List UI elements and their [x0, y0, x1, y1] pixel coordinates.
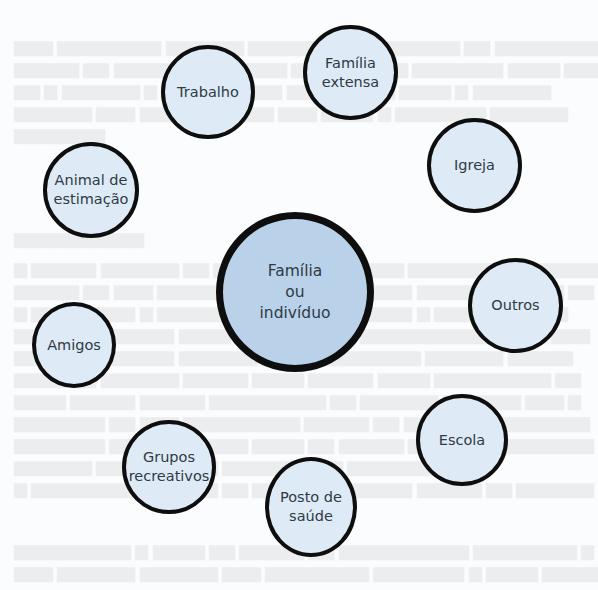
node-label: Animal de estimação	[54, 171, 129, 209]
node-trabalho: Trabalho	[161, 45, 255, 139]
node-label: Outros	[491, 296, 539, 315]
node-label: Igreja	[454, 156, 495, 175]
node-label: Posto de saúde	[280, 488, 342, 526]
center-label: Família ou indivíduo	[260, 261, 331, 324]
node-posto-de-saude: Posto de saúde	[265, 457, 357, 557]
node-amigos: Amigos	[32, 302, 116, 388]
node-label: Trabalho	[177, 83, 239, 102]
node-outros: Outros	[468, 258, 563, 353]
node-label: Escola	[439, 431, 485, 450]
node-label: Grupos recreativos	[129, 448, 210, 486]
node-familia-extensa: Família extensa	[303, 25, 398, 120]
node-familia-ou-individuo: Família ou indivíduo	[216, 212, 374, 372]
node-grupos-recreativos: Grupos recreativos	[122, 420, 216, 514]
node-label: Família extensa	[322, 54, 379, 92]
node-label: Amigos	[47, 336, 101, 355]
node-igreja: Igreja	[427, 118, 522, 213]
node-escola: Escola	[416, 394, 508, 486]
node-animal-de-estimacao: Animal de estimação	[43, 142, 139, 238]
